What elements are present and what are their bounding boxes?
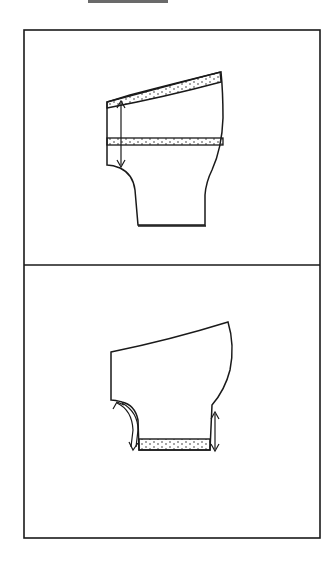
- hem-strip: [139, 439, 210, 450]
- pattern-diagram: [0, 0, 332, 566]
- middle-band-strip: [107, 138, 223, 145]
- top-panel: [107, 72, 223, 226]
- pattern-piece-bottom: [111, 322, 232, 450]
- bottom-panel: [111, 322, 232, 451]
